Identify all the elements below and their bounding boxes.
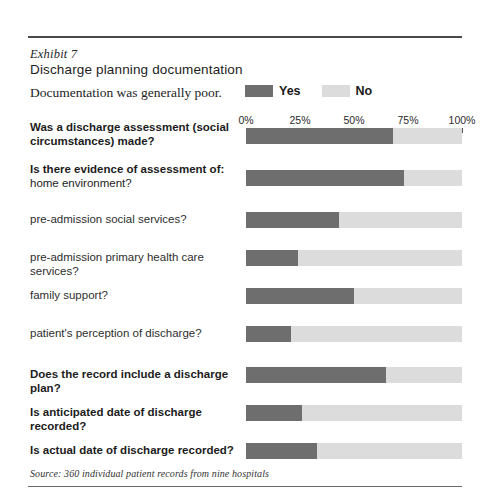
bar-segment-yes [246, 443, 317, 459]
chart-row-label-line1: Is actual date of discharge recorded? [30, 444, 240, 458]
bar-segment-yes [246, 405, 302, 421]
chart-row: Is anticipated date of discharge recorde… [0, 405, 484, 421]
bar-segment-yes [246, 367, 386, 383]
chart-row-label: Was a discharge assessment (socialcircum… [30, 121, 240, 148]
chart-row-label: Is there evidence of assessment of:home … [30, 163, 240, 190]
bar-track-no [246, 212, 462, 228]
chart-legend: Yes No [245, 84, 372, 98]
chart-row-label-line2: home environment? [30, 177, 240, 191]
axis-tick-label: 75% [397, 114, 418, 126]
axis-tick-label: 0% [238, 114, 253, 126]
chart-row-label: family support? [30, 289, 240, 303]
bar-segment-yes [246, 288, 354, 304]
axis-tick-label: 50% [343, 114, 364, 126]
chart-row: pre-admission social services? [0, 212, 484, 228]
chart-row-label-line1: pre-admission social services? [30, 213, 240, 227]
chart-row-label-line1: family support? [30, 289, 240, 303]
chart-row-label: pre-admission primary health care servic… [30, 251, 240, 278]
chart-row: Is actual date of discharge recorded? [0, 443, 484, 459]
legend-swatch-yes [245, 85, 273, 97]
bar-segment-yes [246, 170, 404, 186]
bar-track-no [246, 326, 462, 342]
chart-row: family support? [0, 288, 484, 304]
chart-row-label: pre-admission social services? [30, 213, 240, 227]
axis-tick-labels: 0%25%50%75%100% [246, 114, 462, 128]
bar-segment-yes [246, 212, 339, 228]
chart-row-label-line1: patient's perception of discharge? [30, 327, 240, 341]
chart-subtitle: Documentation was generally poor. [30, 85, 222, 101]
axis-tick-label: 100% [449, 114, 476, 126]
chart-row-label-line1: Was a discharge assessment (social [30, 121, 240, 135]
chart-row-label-line1: pre-admission primary health care servic… [30, 251, 240, 278]
legend-label-no: No [356, 84, 373, 98]
legend-item-yes: Yes [245, 84, 301, 98]
bar-track-no [246, 170, 462, 186]
exhibit-page: Exhibit 7 Discharge planning documentati… [0, 0, 484, 497]
bottom-divider [28, 486, 462, 487]
bar-segment-yes [246, 250, 298, 266]
chart-row-label: Does the record include a discharge plan… [30, 368, 240, 395]
chart-row: pre-admission primary health care servic… [0, 250, 484, 266]
chart-row: Is there evidence of assessment of:home … [0, 170, 484, 186]
top-divider [28, 36, 462, 38]
chart-row-label-line1: Does the record include a discharge plan… [30, 368, 240, 395]
chart-row: Was a discharge assessment (socialcircum… [0, 128, 484, 144]
legend-swatch-no [322, 85, 350, 97]
bar-track-no [246, 367, 462, 383]
chart-row-label: Is anticipated date of discharge recorde… [30, 406, 240, 433]
exhibit-number: Exhibit 7 [30, 47, 77, 62]
chart-row-label: Is actual date of discharge recorded? [30, 444, 240, 458]
source-note: Source: 360 individual patient records f… [30, 468, 269, 479]
bar-segment-yes [246, 326, 291, 342]
bar-track-no [246, 128, 462, 144]
chart-row-label-line1: Is anticipated date of discharge recorde… [30, 406, 240, 433]
bar-track-no [246, 288, 462, 304]
legend-label-yes: Yes [279, 84, 301, 98]
chart-row: Does the record include a discharge plan… [0, 367, 484, 383]
bar-track-no [246, 405, 462, 421]
bar-segment-yes [246, 128, 393, 144]
axis-tick-label: 25% [289, 114, 310, 126]
page-title: Discharge planning documentation [30, 62, 243, 77]
chart-row: patient's perception of discharge? [0, 326, 484, 342]
bar-track-no [246, 250, 462, 266]
legend-item-no: No [322, 84, 373, 98]
chart-row-label-line1: Is there evidence of assessment of: [30, 163, 240, 177]
bar-track-no [246, 443, 462, 459]
chart-row-label: patient's perception of discharge? [30, 327, 240, 341]
chart-row-label-line2: circumstances) made? [30, 135, 240, 149]
